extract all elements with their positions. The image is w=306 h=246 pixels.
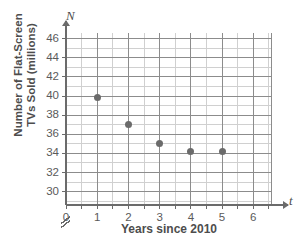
chart-figure: Number of Flat-Screen TVs Sold (millions… [0,0,306,246]
data-point [94,94,101,101]
y-tick-label: 42 [37,70,59,82]
scan-artifact-top [148,0,182,7]
y-tick-label: 30 [37,185,59,197]
data-points-layer [66,33,272,205]
y-tick-label: 44 [37,51,59,63]
y-axis-title: Number of Flat-Screen TVs Sold (millions… [6,0,44,170]
data-point [156,140,163,147]
y-tick-label: 46 [37,32,59,44]
y-tick-label: 32 [37,166,59,178]
data-point [219,148,226,155]
y-tick-label: 36 [37,127,59,139]
y-axis-title-line1: Number of Flat-Screen [12,13,25,136]
y-axis-symbol: N [66,8,75,24]
x-axis-symbol: t [289,193,293,209]
y-axis-title-line2: TVs Sold (millions) [25,23,38,127]
data-point [187,148,194,155]
y-tick-label: 40 [37,89,59,101]
plot-area [66,33,272,205]
data-point [125,121,132,128]
y-tick-label: 38 [37,108,59,120]
y-tick-label: 34 [37,146,59,158]
x-axis-title: Years since 2010 [66,222,272,236]
